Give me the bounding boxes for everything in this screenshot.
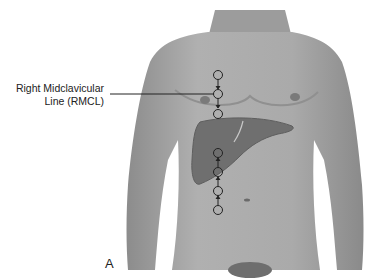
navel <box>244 199 250 202</box>
left-nipple <box>290 93 300 101</box>
groin-shadow <box>228 262 272 278</box>
rmcl-label-line1: Right Midclavicular <box>14 82 104 95</box>
panel-label: A <box>105 256 114 271</box>
right-nipple <box>200 96 210 104</box>
rmcl-label: Right Midclavicular Line (RMCL) <box>14 82 104 108</box>
rmcl-label-line2: Line (RMCL) <box>14 95 104 108</box>
torso-illustration <box>0 0 376 279</box>
